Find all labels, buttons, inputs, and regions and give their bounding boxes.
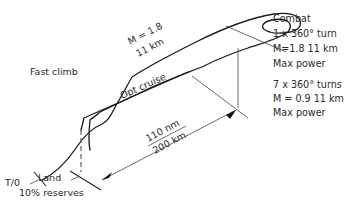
turn-note-line: 7 x 360° turns (273, 79, 342, 90)
reserves-label: 10% reserves (19, 187, 84, 198)
land-label: Land (38, 172, 61, 183)
combat-note-line: 1 x 360° turn (273, 28, 337, 39)
turn-notes: 7 x 360° turns M = 0.9 11 km Max power (273, 79, 344, 118)
turn-note-line: Max power (273, 107, 326, 118)
combat-note-line: Max power (273, 58, 326, 69)
mission-profile-diagram: Fast climb M = 1.8 11 km Opt cruise 110 … (0, 0, 364, 204)
opt-cruise-label: Opt cruise (118, 71, 167, 101)
turn-ref-line (192, 76, 248, 118)
arrow-head-end (226, 110, 236, 119)
combat-note-line: M=1.8 11 km (273, 43, 338, 54)
combat-note-line: Combat (273, 13, 311, 24)
takeoff-leader (30, 180, 38, 184)
combat-notes: Combat 1 x 360° turn M=1.8 11 km Max pow… (273, 13, 338, 69)
fast-climb-label: Fast climb (30, 66, 78, 77)
takeoff-label: T/0 (4, 177, 20, 188)
turn-note-line: M = 0.9 11 km (273, 93, 344, 104)
land-leader (71, 176, 80, 180)
